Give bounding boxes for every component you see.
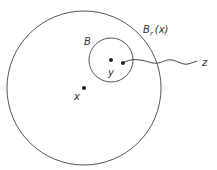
point-in-b xyxy=(121,61,125,65)
point-x-label: x xyxy=(73,91,80,102)
point-z-label: z xyxy=(201,57,208,68)
ball-diagram: Br(x) B y x z xyxy=(0,0,217,170)
outer-ball-label-sub: r xyxy=(150,30,154,38)
point-y-label: y xyxy=(107,67,115,78)
path-to-z xyxy=(123,60,197,65)
inner-ball-label: B xyxy=(84,36,91,47)
point-x xyxy=(82,86,86,90)
outer-ball-label-arg: (x) xyxy=(155,24,169,35)
outer-ball-label: Br(x) xyxy=(143,24,169,38)
point-y xyxy=(109,58,113,62)
